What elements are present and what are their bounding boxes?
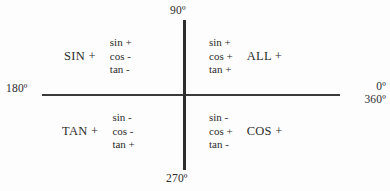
- quadrant-4-group: sin - cos + tan - COS +: [209, 111, 283, 152]
- quadrant-2-cos: cos -: [110, 50, 132, 64]
- quadrant-1-name: ALL +: [247, 49, 283, 64]
- quadrant-2-functions: sin + cos - tan -: [110, 36, 132, 77]
- axis-label-0-degrees: 0º: [364, 80, 386, 93]
- quadrant-1-group: sin + cos + tan + ALL +: [209, 36, 282, 77]
- trig-quadrant-diagram: 90º 270º 180º 0º 360º SIN + sin + cos - …: [0, 0, 390, 191]
- quadrant-1-cos: cos +: [209, 50, 233, 64]
- quadrant-3-group: TAN + sin - cos - tan +: [62, 111, 135, 152]
- quadrant-3-sin: sin -: [112, 111, 134, 125]
- axis-label-360-degrees: 360º: [364, 93, 386, 106]
- quadrant-2-name: SIN +: [64, 49, 96, 64]
- quadrant-4-sin: sin -: [209, 111, 233, 125]
- quadrant-2-tan: tan -: [110, 63, 132, 77]
- axis-label-90-degrees: 90º: [170, 4, 186, 17]
- quadrant-4-tan: tan -: [209, 138, 233, 152]
- quadrant-4-functions: sin - cos + tan -: [209, 111, 233, 152]
- quadrant-1-functions: sin + cos + tan +: [209, 36, 233, 77]
- quadrant-2-sin: sin +: [110, 36, 132, 50]
- quadrant-1-sin: sin +: [209, 36, 233, 50]
- axis-label-zero-360-degrees: 0º 360º: [364, 80, 386, 106]
- quadrant-1-tan: tan +: [209, 63, 233, 77]
- quadrant-2-group: SIN + sin + cos - tan -: [64, 36, 132, 77]
- quadrant-4-cos: cos +: [209, 125, 233, 139]
- axis-label-180-degrees: 180º: [6, 82, 28, 95]
- quadrant-3-name: TAN +: [62, 124, 98, 139]
- quadrant-4-name: COS +: [247, 124, 283, 139]
- quadrant-3-tan: tan +: [112, 138, 134, 152]
- horizontal-axis: [42, 94, 340, 96]
- quadrant-3-cos: cos -: [112, 125, 134, 139]
- quadrant-3-functions: sin - cos - tan +: [112, 111, 134, 152]
- vertical-axis: [183, 20, 186, 170]
- axis-label-270-degrees: 270º: [166, 172, 188, 185]
